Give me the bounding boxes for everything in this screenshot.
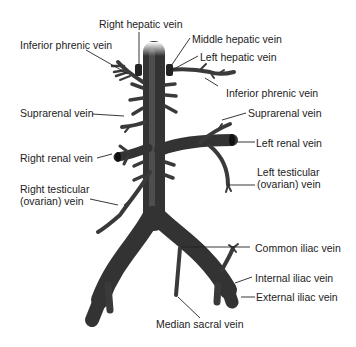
label-common-iliac-vein: Common iliac vein [255,242,341,254]
label-right-hepatic-vein: Right hepatic vein [99,18,182,30]
vena-cava [92,52,238,320]
label-left-hepatic-vein: Left hepatic vein [200,51,276,63]
label-right-renal-vein: Right renal vein [20,152,93,164]
label-inferior-phrenic-vein-left-side: Inferior phrenic vein [226,87,318,99]
label-left-renal-vein: Left renal vein [256,137,322,149]
label-suprarenal-vein-left-side: Suprarenal vein [248,107,322,119]
label-external-iliac-vein: External iliac vein [256,291,338,303]
label-middle-hepatic-vein: Middle hepatic vein [192,33,282,45]
label-suprarenal-vein-right-side: Suprarenal vein [20,107,94,119]
ivc-top-fade [140,42,170,56]
label-right-testicular-ovarian-vein: Right testicular (ovarian) vein [20,183,89,207]
label-inferior-phrenic-vein-right-side: Inferior phrenic vein [20,39,112,51]
label-left-testicular-ovarian-vein: Left testicular (ovarian) vein [257,166,321,190]
label-median-sacral-vein: Median sacral vein [156,318,244,330]
label-internal-iliac-vein: Internal iliac vein [255,272,333,284]
